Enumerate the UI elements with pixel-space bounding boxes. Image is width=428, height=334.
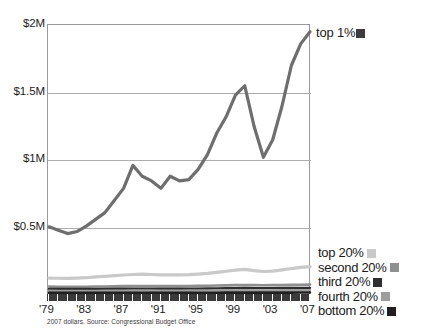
legend-item-swatch — [387, 307, 396, 316]
y-axis-tick-label: $2M — [1, 18, 45, 30]
x-axis-tick — [179, 294, 180, 301]
series-line — [49, 32, 310, 234]
series-line — [49, 285, 310, 287]
legend-item-label: fourth 20% — [318, 290, 378, 304]
plot-area — [47, 24, 310, 294]
x-axis-tick — [281, 294, 282, 301]
legend-item-swatch — [390, 263, 399, 272]
legend-item-swatch — [381, 292, 390, 301]
x-axis-tick — [244, 294, 245, 301]
x-axis-tick — [262, 294, 263, 301]
x-axis-tick — [85, 294, 86, 301]
x-axis-tick — [253, 294, 254, 301]
x-axis-tick-label: '95 — [188, 303, 203, 315]
x-axis-tick — [67, 294, 68, 301]
x-axis-tick — [234, 294, 235, 301]
legend-item-label: bottom 20% — [318, 304, 384, 318]
chart-container: $2M$1.5M$1M$0.5M '79'83'87'91'95'99'03'0… — [0, 0, 428, 334]
x-axis-tick — [300, 294, 301, 301]
x-axis-bar — [47, 294, 310, 301]
x-axis-tick — [216, 294, 217, 301]
x-axis-tick — [309, 294, 310, 301]
legend-item-swatch — [367, 249, 376, 258]
x-axis-tick — [57, 294, 58, 301]
x-axis-tick-label: '99 — [225, 303, 240, 315]
legend-item-label: second 20% — [318, 261, 387, 275]
legend-item: top 20% — [318, 246, 428, 261]
x-axis-tick — [206, 294, 207, 301]
x-axis-tick-label: '07 — [300, 303, 315, 315]
x-axis-tick — [132, 294, 133, 301]
series-line — [49, 267, 310, 279]
x-axis-tick-label: '79 — [39, 303, 54, 315]
x-axis-tick-label: '03 — [263, 303, 278, 315]
series-line — [49, 288, 310, 289]
source-caption: 2007 dollars. Source: Congressional Budg… — [47, 318, 195, 326]
legend-item: third 20% — [318, 275, 428, 290]
x-axis-tick — [160, 294, 161, 301]
x-axis-tick — [272, 294, 273, 301]
x-axis-tick-label: '91 — [151, 303, 166, 315]
series-lines — [48, 25, 311, 295]
legend-item: second 20% — [318, 261, 428, 276]
legend-item: bottom 20% — [318, 304, 428, 319]
x-axis-tick — [48, 294, 49, 301]
legend-top-1-percent-label: top 1% — [316, 26, 355, 40]
legend-item-swatch — [373, 278, 382, 287]
x-axis-tick — [141, 294, 142, 301]
legend-top-1-percent-swatch — [356, 29, 365, 38]
x-axis-tick — [151, 294, 152, 301]
y-axis-tick-label: $0.5M — [1, 221, 45, 233]
x-axis-tick — [76, 294, 77, 301]
x-axis-tick — [197, 294, 198, 301]
legend-item: fourth 20% — [318, 290, 428, 305]
x-axis-tick — [104, 294, 105, 301]
x-axis-tick — [188, 294, 189, 301]
x-axis-tick — [113, 294, 114, 301]
series-line — [49, 290, 310, 291]
y-axis-tick-label: $1M — [1, 153, 45, 165]
x-axis-tick — [95, 294, 96, 301]
x-axis-tick-label: '87 — [114, 303, 129, 315]
y-axis: $2M$1.5M$1M$0.5M — [0, 0, 45, 300]
x-axis-tick-label: '83 — [76, 303, 91, 315]
y-axis-tick-label: $1.5M — [1, 86, 45, 98]
x-axis-tick — [225, 294, 226, 301]
legend-item-label: third 20% — [318, 275, 370, 289]
x-axis-tick — [290, 294, 291, 301]
legend-quintiles: top 20%second 20%third 20%fourth 20%bott… — [318, 246, 428, 319]
x-axis-tick — [169, 294, 170, 301]
legend-top-1-percent: top 1% — [316, 26, 365, 40]
x-axis-tick — [123, 294, 124, 301]
legend-item-label: top 20% — [318, 246, 364, 260]
